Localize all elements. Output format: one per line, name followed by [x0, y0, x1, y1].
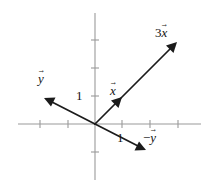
- vector-3x-shaft: [95, 47, 172, 124]
- y-unit-scale-label: 1: [76, 89, 83, 102]
- vector-plot-canvas: [0, 0, 215, 188]
- vector-y-label: y: [38, 72, 44, 85]
- x-unit-scale-label: 1: [117, 131, 124, 144]
- vector-negative-y-symbol: y: [150, 131, 156, 144]
- vector-3x-label: 3x: [155, 26, 167, 39]
- vector-3x-symbol: x: [162, 26, 168, 39]
- vector-diagram-figure: 1 1 3x x y −y: [0, 0, 215, 188]
- vector-x-symbol: x: [110, 84, 116, 97]
- vector-3x-arrow: [95, 42, 177, 124]
- vector-negative-y-label: −y: [143, 131, 156, 144]
- vector-x-label: x: [110, 84, 116, 97]
- vector-y-symbol: y: [38, 72, 44, 85]
- vector-y-shaft: [50, 101, 95, 124]
- vector-y-arrow: [44, 98, 95, 125]
